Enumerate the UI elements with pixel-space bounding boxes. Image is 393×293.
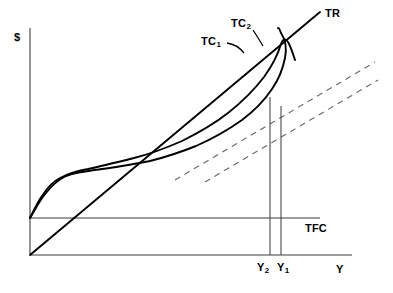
tc2-label-subscript: 2	[246, 22, 251, 31]
tangent-dashed-upper	[175, 62, 375, 180]
economics-total-cost-revenue-diagram: $ TC2 TC1 TR TFC Y2 Y1 Y	[0, 0, 393, 293]
y2-label-subscript: 2	[265, 266, 270, 275]
y-axis-label: $	[14, 31, 20, 43]
y2-tick-label: Y2	[257, 261, 269, 273]
tangent-dashed-lower	[205, 80, 378, 182]
tc2-label: TC2	[231, 17, 251, 29]
tc1-label: TC1	[201, 35, 221, 47]
tc2-curve	[30, 28, 286, 218]
y1-tick-label: Y1	[277, 261, 289, 273]
tc2-leader-pointer	[253, 30, 263, 46]
x-axis-label: Y	[336, 263, 344, 275]
plot-canvas	[0, 0, 393, 293]
tfc-label: TFC	[305, 222, 327, 234]
tc1-label-subscript: 1	[216, 40, 221, 49]
tc1-label-text: TC	[201, 35, 216, 47]
y2-label-text: Y	[257, 261, 265, 273]
tr-label: TR	[325, 7, 340, 19]
tc1-leader-pointer	[227, 43, 244, 53]
y1-label-subscript: 1	[285, 266, 290, 275]
y1-label-text: Y	[277, 261, 285, 273]
tc2-label-text: TC	[231, 17, 246, 29]
